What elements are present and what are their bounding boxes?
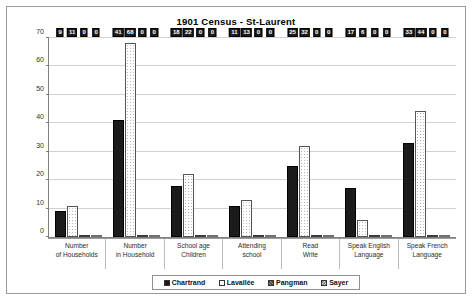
x-axis-category-line: Speak English	[348, 242, 390, 251]
bar[interactable]: 0	[149, 235, 160, 237]
legend-item[interactable]: Chartrand	[164, 279, 205, 286]
bar-wrap: 6	[357, 38, 368, 237]
bar-value-label: 17	[345, 28, 356, 37]
bar-wrap: 0	[323, 38, 334, 237]
bars: 17600	[340, 38, 398, 237]
bars: 111300	[223, 38, 281, 237]
bar[interactable]: 0	[381, 235, 392, 237]
bar[interactable]: 33	[403, 143, 414, 237]
bar-value-label: 0	[255, 28, 262, 37]
bar[interactable]: 25	[287, 166, 298, 237]
bar-wrap: 0	[149, 38, 160, 237]
bars: 253200	[282, 38, 340, 237]
bar-value-label: 11	[229, 28, 239, 37]
bar-value-label: 32	[299, 28, 310, 37]
y-tick-label: 30	[36, 141, 44, 148]
bars: 182200	[165, 38, 223, 237]
y-tick-label: 0	[40, 227, 44, 234]
bar-group: 91100	[49, 38, 107, 237]
bar-wrap: 13	[241, 38, 252, 237]
x-axis-category-line: School age	[177, 242, 210, 251]
bar-wrap: 0	[439, 38, 450, 237]
bar[interactable]: 0	[91, 235, 102, 237]
bar-value-label: 0	[92, 28, 99, 37]
bar[interactable]: 22	[183, 174, 194, 237]
bar[interactable]: 9	[55, 211, 66, 237]
bar-value-label: 0	[371, 28, 378, 37]
bar-value-label: 0	[209, 28, 216, 37]
y-tick-label: 50	[36, 84, 44, 91]
bar-value-label: 0	[429, 28, 436, 37]
x-axis-category-label: Attendingschool	[223, 239, 281, 269]
bar-value-label: 44	[416, 28, 427, 37]
x-axis-category-label: ReadWrite	[282, 239, 340, 269]
bar[interactable]: 6	[357, 220, 368, 237]
bar-wrap: 32	[299, 38, 310, 237]
bar[interactable]: 0	[265, 235, 276, 237]
legend-item[interactable]: Pangman	[268, 279, 308, 286]
bar-value-label: 0	[197, 28, 204, 37]
bar[interactable]: 11	[229, 206, 240, 237]
bar-group: 416800	[107, 38, 165, 237]
bar-wrap: 11	[67, 38, 78, 237]
bars: 334400	[398, 38, 456, 237]
bar-value-label: 0	[313, 28, 320, 37]
x-axis-category-line: Attending	[238, 242, 266, 251]
bar-wrap: 17	[345, 38, 356, 237]
bar[interactable]: 41	[113, 120, 124, 237]
x-axis-category-label: School ageChildren	[165, 239, 223, 269]
legend-item[interactable]: Lavallée	[219, 279, 255, 286]
bar[interactable]: 44	[415, 111, 426, 237]
bar[interactable]: 18	[171, 186, 182, 237]
legend-label: Pangman	[276, 279, 308, 286]
y-tick-label: 40	[36, 113, 44, 120]
bar-group: 111300	[223, 38, 281, 237]
legend-swatch-icon	[164, 280, 170, 286]
bar[interactable]: 68	[125, 43, 136, 237]
bar-wrap: 9	[55, 38, 66, 237]
bar[interactable]: 0	[79, 235, 90, 237]
legend-swatch-icon	[219, 280, 225, 286]
bar-value-label: 0	[441, 28, 448, 37]
bar-wrap: 11	[229, 38, 240, 237]
bar-wrap: 18	[171, 38, 182, 237]
bar-wrap: 22	[183, 38, 194, 237]
x-axis-category-line: Language	[354, 251, 383, 260]
legend-item[interactable]: Sayer	[321, 279, 348, 286]
x-axis-category-line: Number	[123, 242, 146, 251]
bar-wrap: 0	[427, 38, 438, 237]
bar-wrap: 0	[381, 38, 392, 237]
bar-value-label: 13	[241, 28, 252, 37]
bar[interactable]: 0	[137, 235, 148, 237]
bar[interactable]: 0	[253, 235, 264, 237]
bar-wrap: 0	[253, 38, 264, 237]
x-axis-category-line: Number	[65, 242, 88, 251]
bar-group: 334400	[398, 38, 456, 237]
bar[interactable]: 13	[241, 200, 252, 237]
x-axis-category-line: Speak French	[407, 242, 448, 251]
bar-value-label: 0	[151, 28, 158, 37]
bars: 91100	[49, 38, 107, 237]
bar[interactable]: 32	[299, 146, 310, 237]
bar[interactable]: 0	[427, 235, 438, 237]
bar[interactable]: 17	[345, 188, 356, 237]
bar-value-label: 0	[139, 28, 146, 37]
x-axis-category-label: Numberof Households	[48, 239, 106, 269]
legend-label: Chartrand	[172, 279, 205, 286]
bar[interactable]: 0	[207, 235, 218, 237]
bar[interactable]: 0	[369, 235, 380, 237]
bar-value-label: 0	[80, 28, 87, 37]
bar[interactable]: 0	[311, 235, 322, 237]
bar-wrap: 0	[195, 38, 206, 237]
bar-wrap: 0	[79, 38, 90, 237]
bar-wrap: 25	[287, 38, 298, 237]
x-axis-category-label: Speak FrenchLanguage	[399, 239, 456, 269]
x-axis-category-line: school	[242, 251, 261, 260]
bar[interactable]: 0	[323, 235, 334, 237]
bar[interactable]: 0	[439, 235, 450, 237]
bar[interactable]: 0	[195, 235, 206, 237]
bar-group: 182200	[165, 38, 223, 237]
bar[interactable]: 11	[67, 206, 78, 237]
bar-value-label: 18	[171, 28, 182, 37]
bar-value-label: 0	[267, 28, 274, 37]
